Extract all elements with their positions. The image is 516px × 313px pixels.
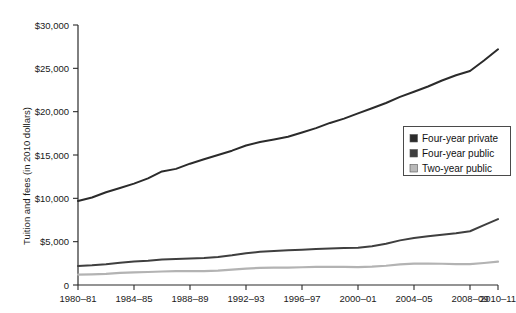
y-tick-label: $10,000 xyxy=(35,193,69,204)
x-tick-label: 2010–11 xyxy=(480,293,516,304)
y-tick-label: 0 xyxy=(64,280,69,291)
x-tick-label: 1984–85 xyxy=(116,293,153,304)
y-tick-label: $20,000 xyxy=(35,106,69,117)
x-tick-label: 1988–89 xyxy=(172,293,209,304)
legend-label: Four-year private xyxy=(422,133,499,144)
y-axis-title-text: Tuition and fees (in 2010 dollars) xyxy=(21,107,32,245)
y-tick-label: $5,000 xyxy=(40,236,69,247)
x-tick-label: 2000–01 xyxy=(340,293,377,304)
legend-swatch xyxy=(410,150,418,158)
x-tick-label: 1996–97 xyxy=(284,293,321,304)
legend-swatch xyxy=(410,135,418,143)
legend-swatch xyxy=(410,165,418,173)
legend-label: Four-year public xyxy=(422,148,494,159)
y-axis-title: Tuition and fees (in 2010 dollars) xyxy=(21,107,32,245)
chart-legend: Four-year privateFour-year publicTwo-yea… xyxy=(404,127,511,176)
y-tick-label: $25,000 xyxy=(35,63,69,74)
x-tick-label: 1992–93 xyxy=(228,293,265,304)
legend-label: Two-year public xyxy=(422,163,492,174)
x-tick-label: 1980–81 xyxy=(60,293,97,304)
chart-container: Tuition and fees (in 2010 dollars) $30,0… xyxy=(0,0,516,313)
y-tick-label: $30,000 xyxy=(35,20,69,31)
x-tick-label: 2004–05 xyxy=(396,293,433,304)
y-tick-label: $15,000 xyxy=(35,150,69,161)
line-chart: Tuition and fees (in 2010 dollars) $30,0… xyxy=(0,0,516,313)
